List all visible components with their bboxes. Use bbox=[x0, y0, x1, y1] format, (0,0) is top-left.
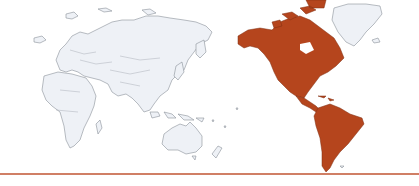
region-australia bbox=[162, 122, 202, 154]
region-tasmania bbox=[192, 156, 196, 160]
region-central-america bbox=[296, 96, 320, 112]
region-africa bbox=[42, 72, 96, 148]
bottom-divider-line bbox=[0, 173, 419, 175]
region-south-america bbox=[314, 104, 364, 172]
region-new-zealand bbox=[212, 146, 222, 158]
region-caribbean bbox=[318, 96, 334, 101]
region-falklands bbox=[340, 166, 344, 168]
region-indonesia bbox=[150, 112, 204, 122]
region-north-america bbox=[238, 16, 344, 98]
region-iceland-east bbox=[372, 38, 380, 43]
region-iceland bbox=[34, 36, 46, 43]
region-madagascar bbox=[96, 120, 102, 134]
world-map bbox=[0, 0, 419, 186]
region-pacific-islands bbox=[212, 108, 238, 128]
